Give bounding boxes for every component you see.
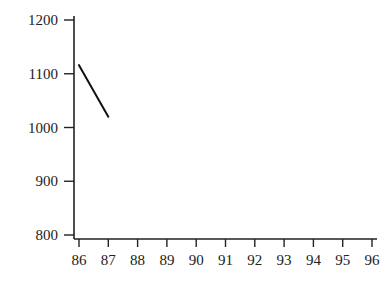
x-tick-label: 87	[101, 252, 117, 268]
data-line	[79, 65, 108, 117]
y-tick-label: 1000	[28, 120, 58, 136]
x-axis: 8687888990919293949596	[72, 239, 381, 268]
x-tick-label: 88	[130, 252, 145, 268]
data-series	[79, 65, 108, 117]
y-axis: 800900100011001200	[28, 12, 74, 243]
y-tick-label: 1200	[28, 12, 58, 28]
x-tick-label: 96	[365, 252, 381, 268]
y-tick-label: 1100	[29, 66, 58, 82]
x-tick-label: 91	[218, 252, 233, 268]
x-tick-label: 89	[159, 252, 174, 268]
x-tick-label: 92	[247, 252, 262, 268]
x-tick-label: 94	[306, 252, 322, 268]
line-chart: 800900100011001200 868788899091929394959…	[0, 0, 392, 282]
y-tick-label: 900	[36, 173, 59, 189]
x-tick-label: 95	[335, 252, 350, 268]
x-tick-label: 93	[277, 252, 292, 268]
x-tick-label: 86	[72, 252, 88, 268]
x-tick-label: 90	[189, 252, 204, 268]
y-tick-label: 800	[36, 227, 59, 243]
